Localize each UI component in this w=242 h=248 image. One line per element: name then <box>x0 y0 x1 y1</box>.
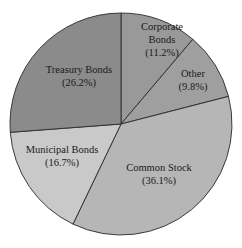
label-common-stock-line1: Common Stock <box>126 161 192 174</box>
label-other: Other (9.8%) <box>179 67 208 93</box>
label-common-stock: Common Stock (36.1%) <box>126 161 192 187</box>
label-corporate-bonds-line1: Corporate <box>141 20 183 33</box>
label-treasury-bonds: Treasury Bonds (26.2%) <box>46 63 112 89</box>
label-corporate-bonds: Corporate Bonds (11.2%) <box>141 20 183 59</box>
pie-chart-graphic <box>0 0 242 248</box>
label-treasury-bonds-pct: (26.2%) <box>46 76 112 89</box>
pie-chart: Corporate Bonds (11.2%) Other (9.8%) Com… <box>0 0 242 248</box>
label-corporate-bonds-line2: Bonds <box>141 33 183 46</box>
label-other-line1: Other <box>179 67 208 80</box>
label-other-pct: (9.8%) <box>179 80 208 93</box>
label-common-stock-pct: (36.1%) <box>126 174 192 187</box>
label-municipal-bonds-pct: (16.7%) <box>26 156 99 169</box>
label-corporate-bonds-pct: (11.2%) <box>141 46 183 59</box>
label-treasury-bonds-line1: Treasury Bonds <box>46 63 112 76</box>
label-municipal-bonds-line1: Municipal Bonds <box>26 143 99 156</box>
label-municipal-bonds: Municipal Bonds (16.7%) <box>26 143 99 169</box>
